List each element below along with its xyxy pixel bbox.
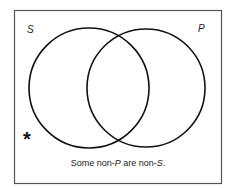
circle-s bbox=[29, 28, 149, 148]
label-p: P bbox=[198, 23, 205, 34]
asterisk-marker: * bbox=[23, 129, 31, 149]
label-s: S bbox=[27, 24, 34, 35]
circle-p bbox=[87, 29, 205, 147]
caption-text: are non- bbox=[121, 158, 157, 168]
caption: Some non-P are non-S. bbox=[14, 158, 222, 168]
caption-text: Some non- bbox=[71, 158, 115, 168]
caption-text: . bbox=[163, 158, 166, 168]
